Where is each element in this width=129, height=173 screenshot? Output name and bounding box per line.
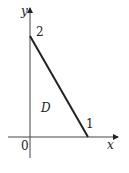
origin-label: 0 xyxy=(21,139,29,153)
region-label: D xyxy=(40,101,51,115)
x-axis-label: x xyxy=(107,138,114,152)
y-intercept-label: 2 xyxy=(36,25,44,39)
coordinate-diagram: y x 0 2 1 D xyxy=(0,0,129,173)
boundary-line xyxy=(30,36,88,137)
y-axis-label: y xyxy=(20,4,28,18)
x-intercept-label: 1 xyxy=(86,117,94,131)
